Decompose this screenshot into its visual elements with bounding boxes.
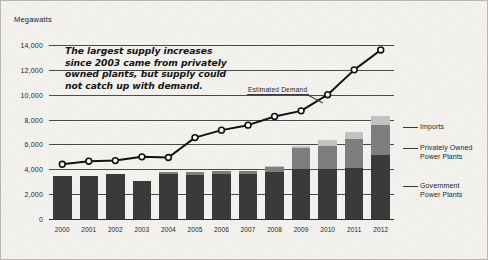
demand-marker-2004 <box>166 155 172 161</box>
demand-marker-2011 <box>351 67 357 73</box>
x-axis-tick-2009: 2009 <box>292 226 311 233</box>
demand-marker-2000 <box>59 161 65 167</box>
y-axis-tick-8000: 8,000 <box>24 116 43 123</box>
legend-label-government-line1: Government <box>420 182 462 191</box>
demand-marker-2012 <box>378 47 384 53</box>
x-axis-tick-2008: 2008 <box>265 226 284 233</box>
legend-label-government-line2: Power Plants <box>420 191 462 200</box>
y-axis-tick-10000: 10,000 <box>20 91 43 98</box>
supply-note-annotation: The largest supply increases since 2003 … <box>65 45 240 91</box>
demand-marker-2006 <box>219 127 225 133</box>
demand-marker-2002 <box>112 158 118 164</box>
demand-marker-2003 <box>139 154 145 160</box>
y-axis-title: Megawatts <box>14 15 52 24</box>
legend-item-government: Government Power Plants <box>420 182 462 199</box>
x-axis-tick-2007: 2007 <box>239 226 258 233</box>
legend-label-privately-owned-line2: Power Plants <box>420 153 472 162</box>
demand-marker-2008 <box>272 114 278 120</box>
gridline-0: 0 <box>49 219 394 220</box>
x-axis-tick-2000: 2000 <box>53 226 72 233</box>
legend-item-imports: Imports <box>420 123 444 132</box>
demand-marker-2009 <box>298 108 304 114</box>
demand-callout-leader-line <box>247 94 309 95</box>
legend-leader-privately-owned <box>403 148 418 149</box>
legend-item-privately-owned: Privately Owned Power Plants <box>420 144 472 161</box>
y-axis-tick-0: 0 <box>39 216 43 223</box>
x-axis-tick-2012: 2012 <box>371 226 390 233</box>
x-axis-tick-2005: 2005 <box>186 226 205 233</box>
y-axis-tick-4000: 4,000 <box>24 166 43 173</box>
x-axis-tick-2006: 2006 <box>212 226 231 233</box>
x-axis-tick-2002: 2002 <box>106 226 125 233</box>
x-axis-tick-2010: 2010 <box>318 226 337 233</box>
legend-label-privately-owned-line1: Privately Owned <box>420 144 472 153</box>
y-axis-tick-12000: 12,000 <box>20 66 43 73</box>
y-axis-tick-2000: 2,000 <box>24 191 43 198</box>
x-axis-tick-2001: 2001 <box>80 226 99 233</box>
demand-marker-2007 <box>245 122 251 128</box>
x-axis-tick-2003: 2003 <box>133 226 152 233</box>
estimated-demand-callout: Estimated Demand <box>248 86 307 93</box>
demand-marker-2005 <box>192 135 198 141</box>
chart-figure: Megawatts 14,00012,00010,0008,0006,0004,… <box>0 0 488 260</box>
demand-marker-2010 <box>325 92 331 98</box>
y-axis-tick-6000: 6,000 <box>24 141 43 148</box>
legend-leader-government <box>403 186 418 187</box>
legend-leader-imports <box>403 127 418 128</box>
y-axis-tick-14000: 14,000 <box>20 42 43 49</box>
legend-label-imports: Imports <box>420 123 444 130</box>
demand-marker-2001 <box>86 158 92 164</box>
x-axis-tick-2011: 2011 <box>345 226 364 233</box>
x-axis-tick-2004: 2004 <box>159 226 178 233</box>
